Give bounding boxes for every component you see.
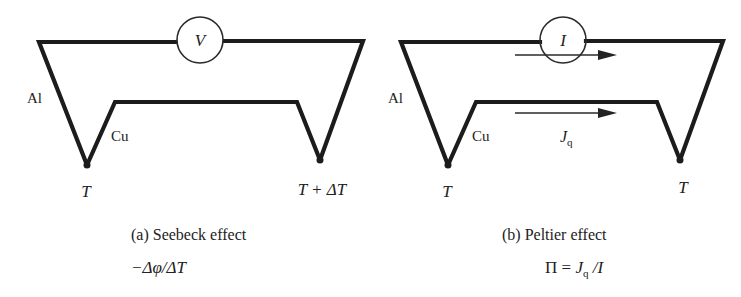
- thermoelectric-diagram: V Al Cu T T + ΔT (a) Seebeck effect −Δφ/…: [0, 0, 741, 297]
- junction-right-label: T: [678, 178, 689, 197]
- junction-left-dot: [445, 162, 452, 169]
- panel-seebeck: V Al Cu T T + ΔT (a) Seebeck effect −Δφ/…: [27, 17, 363, 277]
- formula-seebeck: −Δφ/ΔT: [131, 258, 188, 277]
- junction-right-dot: [317, 157, 324, 164]
- junction-right-dot: [677, 157, 684, 164]
- panel-peltier: I Jq Al Cu T T (b) Peltier effect Π = Jq…: [388, 17, 723, 279]
- caption-seebeck: (a) Seebeck effect: [131, 226, 247, 244]
- al-label: Al: [388, 90, 403, 106]
- al-label: Al: [27, 90, 42, 106]
- cu-label: Cu: [472, 128, 490, 144]
- caption-peltier: (b) Peltier effect: [502, 226, 607, 244]
- heat-flux-label: Jq: [560, 128, 573, 148]
- cu-label: Cu: [111, 128, 129, 144]
- junction-left-label: T: [81, 182, 92, 201]
- formula-peltier: Π = Jq /I: [545, 258, 604, 279]
- junction-right-label: T + ΔT: [298, 180, 348, 199]
- junction-left-dot: [84, 162, 91, 169]
- ammeter-symbol: I: [559, 31, 567, 50]
- heat-flux-arrow-head-icon: [598, 108, 617, 118]
- junction-left-label: T: [442, 182, 453, 201]
- current-arrow-head-icon: [598, 50, 617, 60]
